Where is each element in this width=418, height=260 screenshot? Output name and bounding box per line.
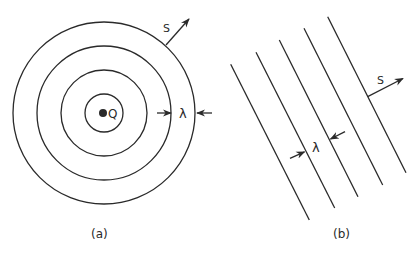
panel-a: Q S λ (a) xyxy=(13,19,212,241)
wavefront-line-1 xyxy=(231,64,310,220)
wavelength-label-a: λ xyxy=(179,106,187,121)
caption-b: (b) xyxy=(333,227,350,241)
direction-label-b: S xyxy=(377,74,384,87)
caption-a: (a) xyxy=(91,227,108,241)
point-source-dot xyxy=(99,109,107,117)
source-label: Q xyxy=(108,107,117,121)
wavefront-line-3 xyxy=(279,40,358,197)
plane-wavefronts xyxy=(231,17,406,220)
panel-b: S λ (b) xyxy=(231,17,406,241)
direction-label-a: S xyxy=(163,22,170,35)
wavelength-label-b: λ xyxy=(312,140,320,155)
wavefront-line-5 xyxy=(328,17,406,173)
wavefront-line-2 xyxy=(256,52,335,208)
wavelength-arrow-right-b xyxy=(331,132,346,139)
wavelength-arrow-left-b xyxy=(290,152,305,159)
direction-arrow-b xyxy=(368,79,403,97)
wavefront-line-4 xyxy=(304,28,383,185)
wavefront-diagram: Q S λ (a) S λ (b) xyxy=(0,0,418,260)
